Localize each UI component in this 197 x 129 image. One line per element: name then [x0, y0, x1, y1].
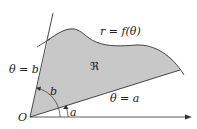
label-angle-a: a	[70, 106, 77, 119]
label-angle-b: b	[50, 85, 57, 98]
label-ray-b: θ = b	[9, 63, 39, 76]
region-shape	[30, 29, 180, 117]
label-origin: O	[18, 111, 27, 124]
diagram-canvas: r = f(θ) ℜ θ = b θ = a b a O	[0, 0, 197, 129]
label-curve: r = f(θ)	[100, 25, 141, 38]
label-ray-a: θ = a	[110, 92, 139, 105]
polar-region-diagram: r = f(θ) ℜ θ = b θ = a b a O	[0, 0, 197, 129]
axis-arrow-icon	[185, 115, 192, 120]
label-region: ℜ	[90, 60, 99, 73]
